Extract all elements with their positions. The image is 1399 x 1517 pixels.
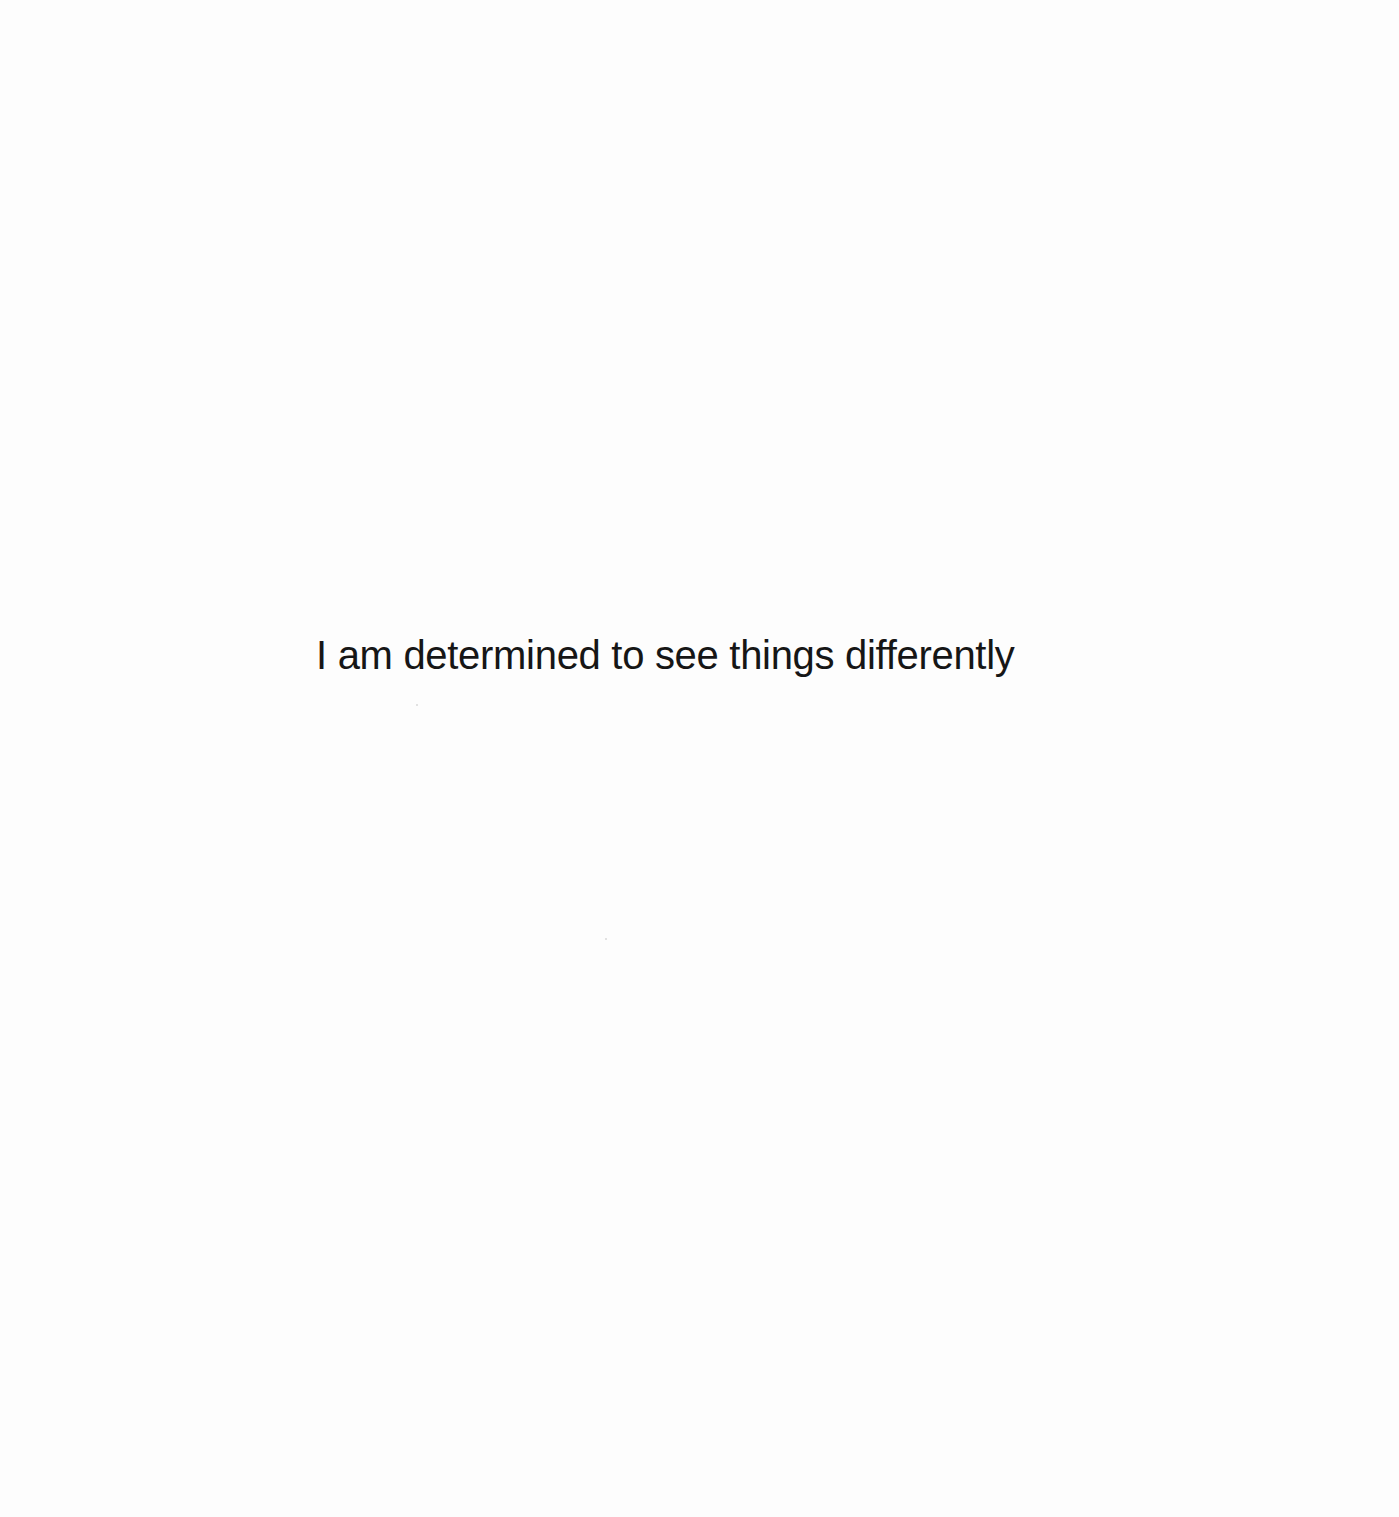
statement-text: I am determined to see things differentl… (316, 630, 1042, 680)
document-page: I am determined to see things differentl… (0, 0, 1399, 1517)
scan-speck (416, 704, 418, 706)
scan-speck (605, 938, 607, 940)
